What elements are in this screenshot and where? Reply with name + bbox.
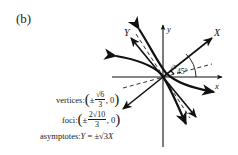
foci-denominator: 3	[88, 120, 106, 129]
vertex-value-label: √5	[170, 64, 176, 70]
foci-label: foci:	[62, 115, 78, 125]
vertices-numerator: √6	[95, 91, 105, 101]
vertices-label: vertices:	[56, 95, 85, 105]
angle-label-45: 45°	[177, 67, 188, 76]
vertices-fraction: √63	[95, 91, 105, 109]
close-paren-vertices: )	[114, 91, 119, 107]
figure-text-layer: X Y y x 45° √5	[0, 0, 238, 155]
figure-panel: (b)	[0, 0, 238, 155]
asymptotes-radical: √3	[99, 131, 108, 141]
vertices-sign: ±	[90, 95, 95, 105]
annotation-asymptotes: asymptotes:Y = ±√3X	[40, 131, 113, 140]
asymptotes-label: asymptotes:	[40, 131, 81, 141]
open-paren-vertices: (	[85, 91, 90, 107]
open-paren-foci: (	[78, 111, 83, 127]
axis-label-x-standard: x	[214, 81, 219, 91]
foci-numerator: 2√10	[88, 111, 106, 121]
axis-label-X: X	[213, 27, 221, 38]
close-paren-foci: )	[115, 111, 120, 127]
axis-label-Y: Y	[124, 27, 131, 38]
asymptotes-rhs-var: X	[108, 131, 113, 141]
foci-fraction: 2√103	[88, 111, 106, 129]
vertices-denominator: 3	[95, 100, 105, 109]
annotation-foci: foci:(±2√103, 0)	[62, 111, 120, 129]
axis-label-y-standard: y	[166, 24, 171, 34]
annotation-vertices: vertices:(±√63, 0)	[56, 91, 119, 109]
foci-sign: ±	[83, 115, 88, 125]
